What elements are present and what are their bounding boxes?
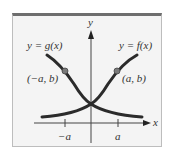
label-f-curve: y = f(x) bbox=[119, 40, 152, 51]
label-tick-pos-a: a bbox=[115, 131, 121, 142]
label-x-axis: x bbox=[153, 117, 158, 128]
point-neg-a-b bbox=[62, 68, 68, 74]
label-tick-neg-a: −a bbox=[58, 131, 71, 142]
point-a-b bbox=[114, 68, 120, 74]
label-point-right: (a, b) bbox=[122, 73, 146, 84]
label-y-axis: y bbox=[88, 17, 93, 28]
x-axis-arrow-icon bbox=[143, 120, 151, 126]
label-point-left: (−a, b) bbox=[27, 73, 58, 84]
y-axis-arrow-icon bbox=[88, 30, 94, 39]
label-g-curve: y = g(x) bbox=[27, 40, 63, 51]
curve-g bbox=[47, 55, 142, 117]
